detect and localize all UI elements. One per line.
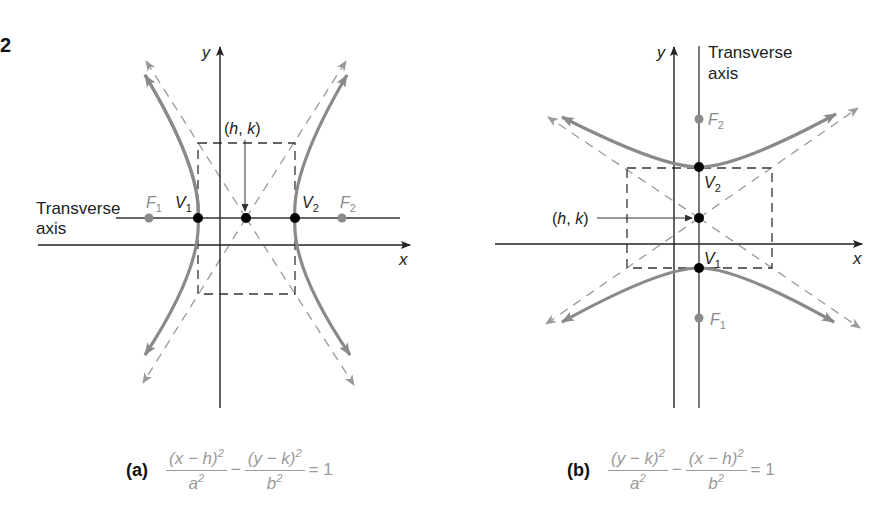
rhs-a: = 1 [309, 460, 333, 480]
focus-f2-label-b: F2 [708, 111, 724, 131]
transverse-label-b: Transverse [708, 43, 792, 62]
focus-f2-label-a: F2 [340, 194, 356, 214]
panel-a-tag: (a) [126, 460, 148, 481]
fraction-2-a: (y − k)2 b2 [245, 447, 305, 493]
panel-b-tag: (b) [567, 460, 590, 481]
focus-f1-label-a: F1 [146, 194, 162, 214]
vertex-v2-b [694, 162, 704, 172]
transverse-label-a: Transverse [36, 199, 120, 218]
equation-b: (b) (y − k)2 a2 − (x − h)2 b2 = 1 [567, 447, 775, 493]
x-axis-label-b: x [852, 249, 862, 268]
vertex-v1-b [694, 263, 704, 273]
vertex-v2-label-a: V2 [302, 194, 319, 214]
transverse-label-a-line2: axis [36, 219, 66, 238]
vertex-v2-label-b: V2 [704, 174, 721, 194]
hyperbola-left-branch [145, 75, 198, 355]
hyperbola-upper-branch [562, 117, 699, 167]
rhs-b: = 1 [751, 460, 775, 480]
center-point-b [694, 213, 704, 223]
panel-b-graph [495, 46, 862, 408]
focus-f2-b [695, 115, 704, 124]
fraction-2-b: (x − h)2 b2 [686, 447, 747, 493]
hyperbola-lower-branch [562, 268, 699, 322]
center-point-a [241, 213, 251, 223]
y-axis-label-a: y [201, 44, 211, 61]
y-axis-label-b: y [656, 44, 666, 61]
focus-f2-a [338, 214, 347, 223]
x-axis-label-a: x [398, 250, 408, 269]
vertex-v1-a [193, 213, 203, 223]
center-label-a: (h, k) [224, 120, 260, 137]
minus-sign-b: − [672, 460, 682, 480]
focus-f1-b [695, 314, 704, 323]
vertex-v2-a [290, 213, 300, 223]
minus-sign-a: − [231, 460, 241, 480]
transverse-label-b-line2: axis [708, 64, 738, 83]
center-label-b: (h, k) [552, 210, 588, 227]
fraction-1-b: (y − k)2 a2 [608, 447, 668, 493]
focus-f1-a [145, 214, 154, 223]
focus-f1-label-b: F1 [710, 311, 726, 331]
fraction-1-a: (x − h)2 a2 [166, 447, 227, 493]
panel-a-graph [38, 47, 410, 408]
equation-a: (a) (x − h)2 a2 − (y − k)2 b2 = 1 [126, 447, 333, 493]
asymptotes-a [143, 61, 354, 385]
vertex-v1-label-a: V1 [175, 194, 192, 214]
